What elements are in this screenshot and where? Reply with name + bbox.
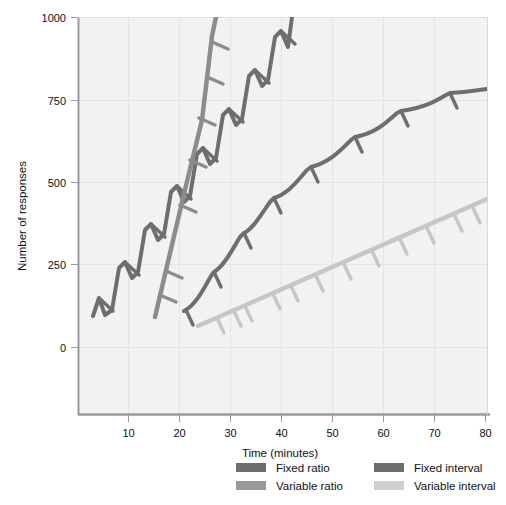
chart-legend: Fixed ratio Fixed interval Variable rati… xyxy=(236,462,496,492)
y-axis-title: Number of responses xyxy=(16,161,28,271)
legend-label-fixed-interval: Fixed interval xyxy=(414,462,482,474)
responses-over-time-chart: 1000 750 500 250 0 10 20 30 40 50 60 70 … xyxy=(0,0,506,505)
x-tick-label-10: 10 xyxy=(122,427,134,439)
x-axis-ticks xyxy=(129,415,486,422)
x-axis-tick-labels: 10 20 30 40 50 60 70 80 xyxy=(122,427,491,439)
plot-area-background xyxy=(78,17,487,415)
legend-label-variable-ratio: Variable ratio xyxy=(276,480,343,492)
x-tick-label-40: 40 xyxy=(275,427,287,439)
y-tick-label-750: 750 xyxy=(48,95,66,107)
x-tick-label-50: 50 xyxy=(326,427,338,439)
x-tick-label-20: 20 xyxy=(173,427,185,439)
y-axis-tick-labels: 1000 750 500 250 0 xyxy=(42,12,66,354)
x-tick-label-80: 80 xyxy=(479,427,491,439)
legend-label-variable-interval: Variable interval xyxy=(414,480,496,492)
x-tick-label-60: 60 xyxy=(377,427,389,439)
x-tick-label-30: 30 xyxy=(224,427,236,439)
legend-swatch-fixed-ratio xyxy=(236,463,266,472)
y-tick-label-0: 0 xyxy=(60,342,66,354)
legend-swatch-fixed-interval xyxy=(374,463,404,472)
y-tick-label-250: 250 xyxy=(48,259,66,271)
chart-figure: 1000 750 500 250 0 10 20 30 40 50 60 70 … xyxy=(0,0,506,505)
legend-label-fixed-ratio: Fixed ratio xyxy=(276,462,330,474)
y-tick-label-500: 500 xyxy=(48,177,66,189)
legend-swatch-variable-interval xyxy=(374,481,404,490)
x-axis-title: Time (minutes) xyxy=(242,447,318,459)
y-tick-label-1000: 1000 xyxy=(42,12,66,24)
x-tick-label-70: 70 xyxy=(428,427,440,439)
legend-swatch-variable-ratio xyxy=(236,481,266,490)
y-axis-ticks xyxy=(71,18,78,348)
